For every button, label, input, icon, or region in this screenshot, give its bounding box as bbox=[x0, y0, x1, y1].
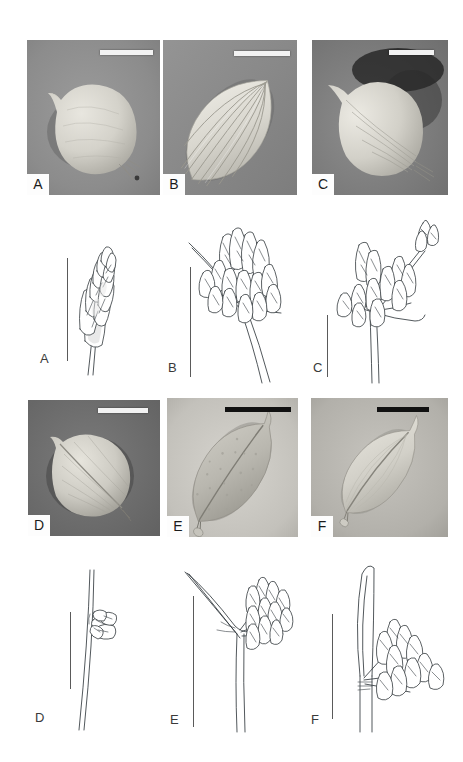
drawing-panel-a: A bbox=[30, 215, 160, 380]
drawing-inflorescence-a bbox=[30, 215, 160, 380]
drawing-panel-c: C bbox=[315, 215, 460, 385]
sem-panel-f: F bbox=[311, 398, 448, 537]
sem-background-b bbox=[163, 40, 297, 195]
drawing-panel-e: E bbox=[165, 552, 310, 734]
sem-panel-label-c: C bbox=[312, 174, 334, 195]
drawing-scale-bar-c bbox=[327, 315, 328, 377]
sem-panel-label-b: B bbox=[163, 174, 185, 195]
drawing-panel-b: B bbox=[165, 215, 310, 385]
drawing-scale-bar-a bbox=[67, 258, 68, 361]
sem-panel-d: D bbox=[28, 400, 160, 536]
sem-background-c bbox=[312, 40, 448, 195]
sem-panel-label-d: D bbox=[28, 515, 50, 536]
sem-panel-label-e: E bbox=[167, 516, 189, 537]
scale-bar-c bbox=[389, 50, 434, 55]
sem-panel-label-f: F bbox=[311, 516, 333, 537]
drawing-panel-d: D bbox=[30, 552, 160, 732]
drawing-panel-label-d: D bbox=[35, 710, 44, 725]
scale-bar-b bbox=[234, 51, 290, 56]
sem-panel-e: E bbox=[167, 398, 298, 537]
drawing-scale-bar-d bbox=[70, 612, 71, 689]
drawing-scale-bar-b bbox=[190, 267, 191, 377]
sem-panel-label-a: A bbox=[27, 174, 49, 195]
figure-plate: A bbox=[0, 0, 463, 762]
drawing-panel-label-f: F bbox=[311, 712, 319, 727]
scale-bar-f bbox=[377, 407, 429, 412]
sem-panel-a: A bbox=[27, 40, 160, 195]
drawing-scale-bar-e bbox=[193, 596, 194, 727]
drawing-inflorescence-b bbox=[165, 215, 310, 385]
drawing-panel-label-e: E bbox=[170, 712, 179, 727]
drawing-panel-label-c: C bbox=[313, 360, 322, 375]
sem-panel-c: C bbox=[312, 40, 448, 195]
sem-background-a bbox=[27, 40, 160, 195]
sem-panel-b: B bbox=[163, 40, 297, 195]
scale-bar-d bbox=[98, 408, 148, 413]
drawing-panel-label-b: B bbox=[168, 360, 177, 375]
scale-bar-e bbox=[225, 407, 291, 412]
drawing-panel-label-a: A bbox=[40, 351, 49, 366]
drawing-scale-bar-f bbox=[332, 614, 333, 719]
drawing-panel-f: F bbox=[312, 552, 460, 734]
drawing-inflorescence-c bbox=[315, 215, 460, 385]
drawing-inflorescence-d bbox=[30, 552, 160, 732]
drawing-inflorescence-f bbox=[312, 552, 460, 734]
drawing-inflorescence-e bbox=[165, 552, 310, 734]
scale-bar-a bbox=[100, 50, 153, 55]
